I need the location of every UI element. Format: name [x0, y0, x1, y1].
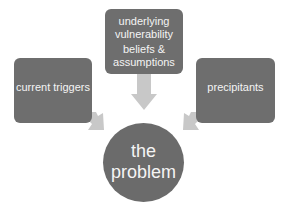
node-text: beliefs & — [113, 43, 175, 56]
arrow-down-icon — [131, 74, 157, 110]
node-text: underlying — [115, 15, 173, 28]
node-text: problem — [111, 162, 176, 183]
node-text: precipitants — [207, 81, 263, 94]
node-text: assumptions — [113, 56, 175, 69]
node-the-problem: the problem — [103, 123, 184, 202]
node-precipitants: precipitants — [196, 58, 275, 123]
node-top-group-1: underlying vulnerability — [115, 15, 173, 41]
node-current-triggers: current triggers — [14, 58, 92, 123]
node-underlying-vulnerability: underlying vulnerability beliefs & assum… — [105, 9, 183, 74]
node-top-group-2: beliefs & assumptions — [113, 43, 175, 69]
node-text: the — [131, 141, 156, 162]
node-text: vulnerability — [115, 28, 173, 41]
node-text: current triggers — [16, 81, 90, 94]
